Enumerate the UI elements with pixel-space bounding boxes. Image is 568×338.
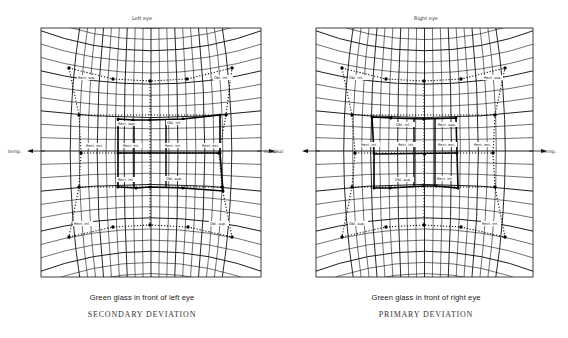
field-point [149, 186, 152, 189]
muscle-label: Obl. inf. [214, 76, 228, 80]
field-point [491, 151, 494, 154]
muscle-label: Rect. sup. [78, 76, 96, 80]
muscle-label: Rect. ext. [86, 144, 103, 148]
muscle-label: Obl. inf. [349, 76, 363, 80]
arrow-left-icon [302, 149, 308, 153]
field-point [224, 113, 227, 116]
field-point [350, 185, 353, 188]
field-point [371, 116, 374, 119]
left-distorted-grid [36, 2, 266, 300]
muscle-label: Obl. sup. [210, 222, 226, 226]
right-eye-chart: Obl. inf.Rect. sup.Obl. inf.Rect. sup.Re… [302, 2, 547, 300]
muscle-label: Obl. sup. [395, 178, 411, 182]
field-point [384, 77, 387, 80]
muscle-label: Obl. sup. [349, 222, 365, 226]
field-point [373, 152, 376, 155]
field-point [186, 225, 189, 228]
field-point [340, 235, 343, 238]
field-point [459, 225, 462, 228]
field-point [456, 152, 459, 155]
muscle-label: Rect. sup. [484, 76, 502, 80]
fixation-point [423, 152, 426, 155]
muscle-label: Rect. ext. [202, 144, 219, 148]
hess-charts: Rect. sup.Obl. inf.Rect. sup.Obl. inf.Re… [0, 0, 568, 338]
muscle-label: Obl. inf. [396, 123, 410, 127]
field-point [77, 113, 80, 116]
field-point [111, 225, 114, 228]
right-muscle-labels: Obl. inf.Rect. sup.Obl. inf.Rect. sup.Re… [348, 75, 503, 226]
field-point [148, 79, 151, 82]
field-point [222, 190, 225, 193]
muscle-label: Rect. int. [123, 144, 139, 148]
field-point [350, 113, 353, 116]
field-point [455, 117, 458, 120]
field-point [390, 117, 393, 120]
field-point [423, 118, 426, 121]
field-point [457, 187, 460, 190]
left-eye-chart: Rect. sup.Obl. inf.Rect. sup.Obl. inf.Re… [27, 2, 275, 300]
field-point [230, 235, 233, 238]
field-point [219, 152, 222, 155]
arrow-right-icon [541, 149, 547, 153]
field-point [182, 187, 185, 190]
field-point [459, 77, 462, 80]
arrow-right-icon [269, 149, 275, 153]
muscle-label: Obl. sup. [166, 177, 182, 181]
field-point [435, 185, 438, 188]
field-point [389, 187, 392, 190]
field-point [422, 223, 425, 226]
field-point [67, 66, 70, 69]
muscle-label: Rect. sup. [438, 123, 456, 127]
field-point [493, 113, 496, 116]
field-point [185, 77, 188, 80]
field-point [423, 185, 426, 188]
field-point [384, 225, 387, 228]
field-point [230, 66, 233, 69]
field-point [503, 235, 506, 238]
muscle-label: Rect. int. [361, 143, 377, 147]
field-point [117, 186, 120, 189]
field-point [79, 151, 82, 154]
muscle-label: Rect. ext. [438, 143, 455, 147]
muscle-label: Rect. ext. [474, 143, 491, 147]
muscle-label: Rect. inf. [118, 178, 134, 182]
field-point [353, 151, 356, 154]
fixation-point [148, 151, 151, 154]
field-point [117, 152, 120, 155]
field-point [77, 185, 80, 188]
field-point [149, 119, 152, 122]
muscle-label: Rect. inf. [482, 222, 498, 226]
field-point [117, 118, 120, 121]
field-point [373, 187, 376, 190]
field-point [340, 66, 343, 69]
field-point [422, 79, 425, 82]
field-point [67, 235, 70, 238]
field-point [219, 114, 222, 117]
field-point [148, 223, 151, 226]
field-point [135, 187, 138, 190]
field-point [503, 66, 506, 69]
muscle-label: Rect. sup. [118, 122, 136, 126]
arrow-left-icon [27, 149, 33, 153]
muscle-label: Rect. inf. [74, 222, 90, 226]
field-point [493, 185, 496, 188]
muscle-label: Obl. inf. [167, 121, 181, 125]
muscle-label: Rect. inf. [437, 177, 453, 181]
muscle-label: Rect. int. [165, 144, 181, 148]
field-point [111, 77, 114, 80]
muscle-label: Rect. int. [398, 143, 414, 147]
